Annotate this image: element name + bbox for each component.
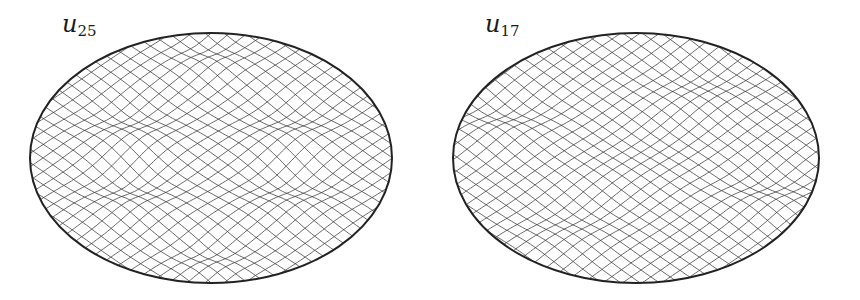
mesh-line [27,37,396,288]
label-base: u [62,10,77,38]
mesh-panel-u25 [25,28,397,287]
warped-mesh-u17 [448,28,824,288]
mesh-line [771,252,824,288]
mesh-line [28,187,177,287]
mesh-line [449,193,587,286]
mesh-line [25,29,176,131]
mesh-line [27,94,311,287]
label-base: u [485,10,500,38]
mesh-line [27,30,56,50]
mesh-line [538,93,824,288]
mesh-line [616,147,823,287]
warped-mesh-u25 [25,28,397,287]
mesh-line [596,28,822,185]
mesh-line [637,29,822,156]
mesh-line [479,54,824,288]
mesh-line [26,279,39,288]
mesh-line [26,239,98,288]
mesh-line [449,30,587,125]
mesh-line [106,29,395,226]
mesh-line [791,29,823,51]
mesh-line [637,162,822,287]
mesh-line [301,30,396,95]
mesh-line [558,107,823,287]
mesh-line [182,142,396,287]
mesh-line [27,174,197,287]
mesh-line [26,253,76,287]
mesh-line [616,29,822,172]
mesh-line [339,249,395,287]
mesh-line [500,67,823,287]
mesh-line [448,179,607,287]
mesh-line [449,232,528,286]
mesh-line [27,68,348,286]
mesh-line [675,29,823,130]
mesh-line [360,30,397,55]
mesh-line [791,266,823,288]
mesh-line [771,28,824,64]
mesh-line [448,258,490,287]
mesh-panel-u17 [448,28,824,288]
mesh-line [377,275,396,288]
mesh-line [26,29,368,262]
mesh-line [733,225,823,287]
mesh-line [450,246,511,287]
mesh-line [319,29,396,81]
mesh-line [106,90,395,287]
mesh-line [28,30,290,208]
mesh-line [449,30,470,44]
label-subscript: 25 [77,22,96,40]
mesh-line [812,29,823,36]
mesh-line [144,116,396,287]
mesh-line [27,30,348,248]
mesh-line [360,261,397,286]
mesh-figure [0,0,860,300]
mesh-line [240,182,397,287]
mesh-line [26,54,368,287]
mesh-line [27,29,396,280]
mesh-line [448,29,724,216]
mesh-line [26,80,331,287]
mesh-line [448,28,628,149]
mesh-line [27,267,56,287]
mesh-line [339,29,395,67]
label-subscript: 17 [500,22,519,40]
panel-label-u17: u17 [485,12,520,39]
mesh-line [448,29,665,177]
mesh-line [450,207,569,288]
mesh-line [27,29,311,222]
mesh-line [182,29,396,174]
mesh-line [450,286,453,288]
mesh-line [654,175,822,288]
mesh-line [301,221,396,286]
mesh-line [26,28,39,37]
panel-label-u25: u25 [62,12,97,39]
mesh-line [448,219,549,287]
mesh-line [26,29,156,117]
mesh-line [450,28,803,268]
mesh-line [450,28,453,30]
mesh-line [449,272,470,286]
mesh-line [144,29,395,200]
mesh-line [319,235,396,287]
mesh-line [450,29,607,135]
mesh-line [377,29,396,42]
mesh-line [578,121,822,287]
mesh-line [27,213,136,287]
mesh-line [68,30,397,254]
mesh-line [812,280,823,287]
mesh-line [450,167,628,288]
